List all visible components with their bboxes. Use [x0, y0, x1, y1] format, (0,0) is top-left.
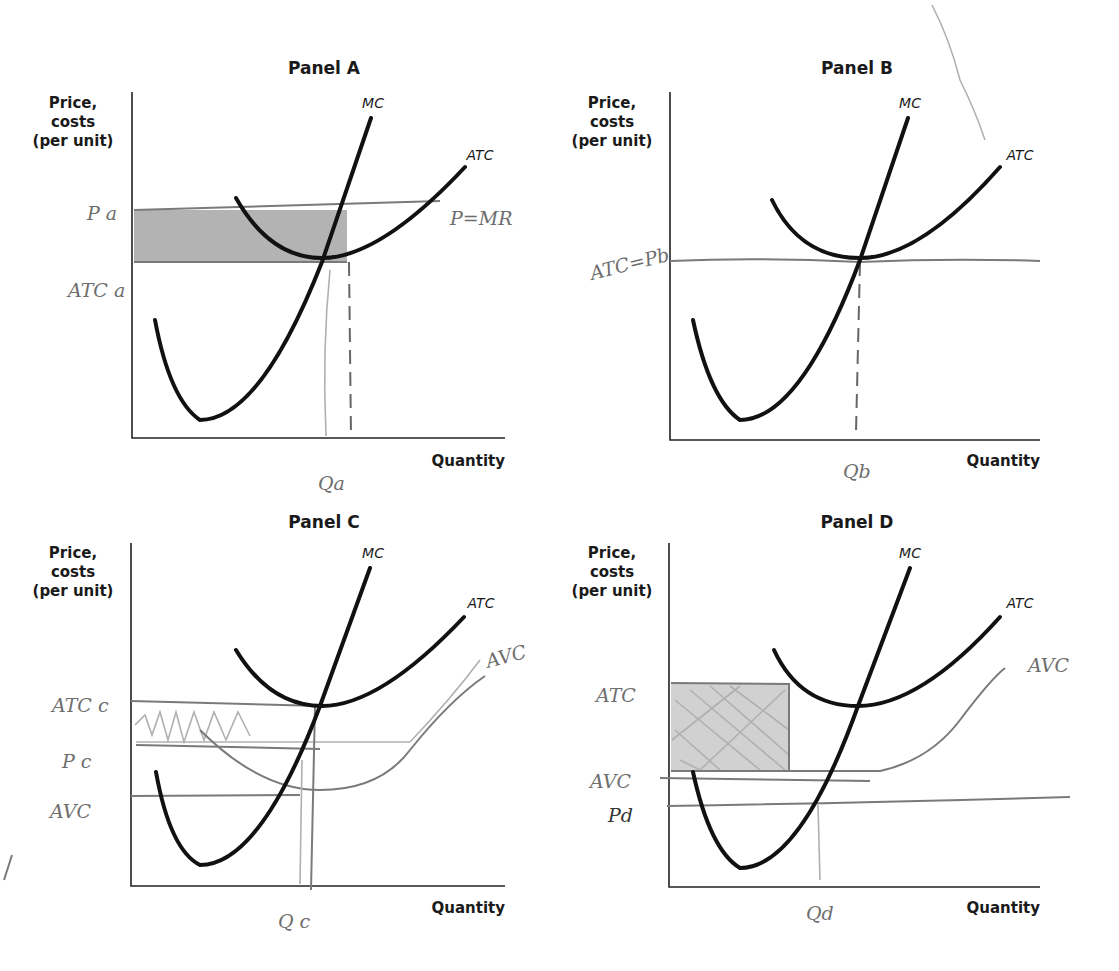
panel-c-q-line-light [300, 760, 302, 884]
panel-c-xlabel: Quantity [432, 899, 506, 917]
panel-c-avc-curve-light [410, 660, 480, 742]
panel-b-axes [670, 92, 1040, 440]
panel-a-q-dash [349, 262, 351, 436]
panel-b-xlabel: Quantity [967, 452, 1041, 470]
panel-d-avc-curve-label: AVC [1026, 654, 1069, 676]
panel-a-ylabel-3: (per unit) [33, 132, 114, 150]
panel-a-profit-area [134, 210, 347, 262]
panel-c-ylabel-3: (per unit) [33, 582, 114, 600]
panel-a-q-annotation: Qa [318, 472, 345, 494]
panel-d-ylabel-2: costs [590, 563, 634, 581]
panel-d-ylabel-3: (per unit) [572, 582, 653, 600]
panel-c-avc-line [131, 795, 300, 796]
panel-b-ylabel-3: (per unit) [572, 132, 653, 150]
panel-c-loss-shading [135, 712, 250, 742]
panel-d: Panel D Price, costs (per unit) Quantity… [572, 512, 1070, 924]
panel-b-ylabel-2: costs [590, 113, 634, 131]
panel-c-ylabel-2: costs [51, 563, 95, 581]
panel-a-ylabel-1: Price, [49, 94, 97, 112]
panel-d-price-annotation: Pd [607, 804, 633, 826]
panel-c-stray-mark [4, 855, 12, 880]
panel-a-title: Panel A [288, 58, 361, 78]
panel-a-atc-annotation: ATC a [66, 279, 125, 301]
panel-a-ylabel-2: costs [51, 113, 95, 131]
panel-b-title: Panel B [821, 58, 893, 78]
panel-d-title: Panel D [821, 512, 894, 532]
panel-c-atc-label: ATC [467, 595, 495, 611]
panel-d-atc-label: ATC [1006, 595, 1034, 611]
panel-d-mc-label: MC [899, 545, 921, 561]
panel-d-q-annotation: Qd [806, 902, 834, 924]
panel-a-mc-curve [155, 118, 371, 420]
panel-a: Panel A Price, costs (per unit) Quantity… [33, 58, 513, 494]
panel-c-mc-label: MC [362, 545, 384, 561]
panel-a-price-line [134, 201, 440, 210]
panel-a-mc-label: MC [362, 95, 384, 111]
panel-c-price-annotation: P c [61, 750, 92, 772]
panel-d-avc-annotation: AVC [588, 770, 631, 792]
panel-d-q-tick [818, 805, 820, 880]
panel-b-ylabel-1: Price, [588, 94, 636, 112]
panel-b-q-annotation: Qb [843, 460, 871, 482]
panel-b-q-dash [856, 262, 860, 432]
panel-d-atc-annotation: ATC [594, 684, 636, 706]
panel-c-q-line [311, 706, 315, 890]
panel-c: Panel C Price, costs (per unit) Quantity… [4, 512, 529, 932]
panel-b: Panel B Price, costs (per unit) Quantity… [572, 58, 1041, 482]
panel-a-axes [132, 92, 505, 438]
panel-b-atc-label: ATC [1006, 147, 1034, 163]
panel-c-ylabel-1: Price, [49, 544, 97, 562]
panel-c-avc-annotation: AVC [48, 800, 91, 822]
panel-a-pmr-annotation: P=MR [449, 207, 512, 229]
panel-c-atc-annotation: ATC c [50, 694, 109, 716]
panel-b-mc-curve [693, 118, 908, 420]
panel-d-avc-line [660, 778, 870, 781]
panel-d-ylabel-1: Price, [588, 544, 636, 562]
panel-a-price-annotation: P a [86, 202, 117, 224]
panel-b-price-annotation: ATC=Pb [586, 243, 672, 284]
panel-d-price-line [667, 797, 1070, 806]
panel-a-q-pencil [325, 270, 330, 436]
panel-b-mc-label: MC [899, 95, 921, 111]
panel-d-xlabel: Quantity [967, 899, 1041, 917]
panel-a-xlabel: Quantity [432, 452, 506, 470]
panel-c-mc-curve [156, 568, 370, 865]
panel-c-price-line [136, 745, 320, 749]
panel-c-title: Panel C [288, 512, 359, 532]
panel-c-avc-curve [200, 676, 485, 790]
pencil-smudge [932, 5, 985, 140]
panel-c-avc-curve-label: AVC [481, 640, 529, 673]
panel-a-atc-label: ATC [466, 147, 494, 163]
cost-curves-figure: Panel A Price, costs (per unit) Quantity… [0, 0, 1119, 971]
panel-c-atc-curve [236, 617, 464, 706]
panel-c-q-annotation: Q c [278, 910, 311, 932]
